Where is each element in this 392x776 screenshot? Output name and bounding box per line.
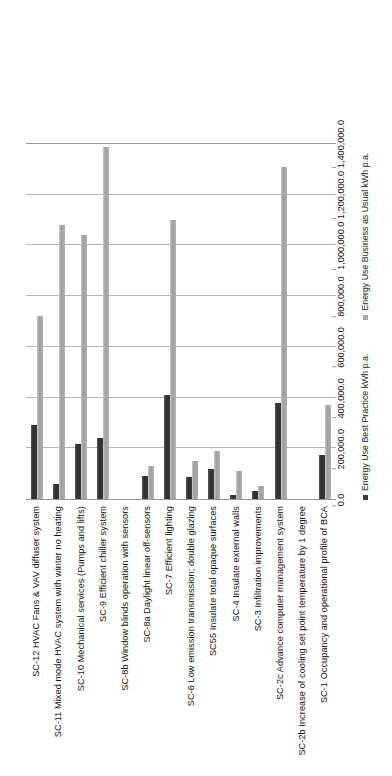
- legend-item[interactable]: Energy Use Best Practice kWh p.a.: [360, 354, 370, 500]
- bar-business-as-usual: [236, 471, 242, 499]
- bar-business-as-usual: [192, 461, 198, 499]
- bar-row: [92, 144, 114, 499]
- category-label: SC-10 Mechanical services (Pumps and lif…: [70, 500, 92, 768]
- axis-tick-label: 600,000.0: [336, 327, 346, 367]
- bar-row: [203, 144, 225, 499]
- category-label: SC-3 Infiltration improvements: [247, 500, 269, 768]
- axis-tick-mark: [332, 167, 336, 168]
- axis-tick-label: 1,200,000.0: [336, 171, 346, 219]
- rotated-chart-stage: SC-12 HVAC Fans & VAV diffuser systemSC-…: [0, 0, 392, 776]
- bar-row: [137, 144, 159, 499]
- category-label: SC-12 HVAC Fans & VAV diffuser system: [26, 500, 48, 768]
- category-label: SC-7 Efficient lighting: [159, 500, 181, 768]
- category-label: SC-11 Mixed mode HVAC system with winter…: [48, 500, 70, 768]
- bar-row: [26, 144, 48, 499]
- category-label: SC-8b Window blinds operation with senso…: [115, 500, 137, 768]
- axis-tick-mark: [332, 269, 336, 270]
- bar-business-as-usual: [103, 147, 109, 499]
- category-label: SC-2c Advance computer management system: [270, 500, 292, 768]
- bar-row: [70, 144, 92, 499]
- bar-row: [115, 144, 137, 499]
- bar-row: [314, 144, 336, 499]
- category-label: SC-2b Increase of cooling set point temp…: [292, 500, 314, 768]
- axis-tick-mark: [332, 418, 336, 419]
- bar-business-as-usual: [59, 225, 65, 499]
- legend-label: Energy Use Business as Usual kWh p.a.: [360, 153, 370, 311]
- axis-tick-mark: [332, 316, 336, 317]
- category-label: SC-4 Insulate external walls: [225, 500, 247, 768]
- axis-tick-label: 200,000.0: [336, 429, 346, 469]
- category-label: SC-9 Efficient chiller system: [92, 500, 114, 768]
- bar-business-as-usual: [214, 451, 220, 499]
- legend-swatch-icon: [363, 495, 368, 500]
- chart-page: SC-12 HVAC Fans & VAV diffuser systemSC-…: [0, 0, 392, 776]
- bar-rows: [26, 144, 336, 499]
- bar-business-as-usual: [325, 405, 331, 499]
- plot-area: [26, 144, 336, 500]
- axis-tick-label: 800,000.0: [336, 276, 346, 316]
- axis-tick-label: 1,000,000.0: [336, 222, 346, 270]
- bar-business-as-usual: [258, 486, 264, 499]
- bar-business-as-usual: [81, 235, 87, 499]
- legend-label: Energy Use Best Practice kWh p.a.: [360, 354, 370, 491]
- axis-tick-label: 1,400,000.0: [336, 120, 346, 168]
- category-label: SC55 Insulate total opaque surfaces: [203, 500, 225, 768]
- bar-row: [247, 144, 269, 499]
- axis-tick-label: 0.0: [336, 494, 346, 507]
- bar-business-as-usual: [37, 316, 43, 499]
- axis-tick-label: 400,000.0: [336, 378, 346, 418]
- category-label: SC-6 Low emission transmission; double g…: [181, 500, 203, 768]
- axis-tick-mark: [332, 367, 336, 368]
- bar-business-as-usual: [281, 167, 287, 499]
- bar-row: [159, 144, 181, 499]
- bar-row: [292, 144, 314, 499]
- axis-tick-mark: [332, 468, 336, 469]
- value-axis: 0.0200,000.0400,000.0600,000.0800,000.01…: [336, 144, 376, 500]
- category-label: SC-1 Occupancy and operational profile o…: [314, 500, 336, 768]
- legend-item[interactable]: Energy Use Business as Usual kWh p.a.: [360, 153, 370, 320]
- bar-row: [48, 144, 70, 499]
- bar-chart: SC-12 HVAC Fans & VAV diffuser systemSC-…: [0, 0, 392, 776]
- category-label: SC-8a Daylight linear off-sensors: [137, 500, 159, 768]
- category-axis: SC-12 HVAC Fans & VAV diffuser systemSC-…: [26, 500, 336, 768]
- legend-swatch-icon: [363, 315, 368, 320]
- bar-row: [270, 144, 292, 499]
- axis-tick-mark: [332, 218, 336, 219]
- bar-row: [181, 144, 203, 499]
- chart-legend: Energy Use Best Practice kWh p.a.Energy …: [360, 80, 370, 500]
- bar-business-as-usual: [170, 220, 176, 499]
- bar-business-as-usual: [148, 466, 154, 499]
- axis-tick-mark: [332, 505, 336, 506]
- bar-row: [225, 144, 247, 499]
